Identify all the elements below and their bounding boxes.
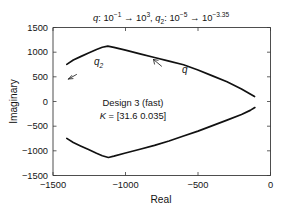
y-tick-label-500: 500: [32, 72, 48, 82]
y-tick-label-1000: 1000: [27, 47, 48, 57]
y-tick-label-neg500: −500: [27, 121, 48, 131]
q2-curve-tag-sub: 2: [99, 62, 104, 69]
x-tick-label-0: 0: [268, 180, 273, 190]
root-locus-plot: q: 10−1 → 103, q2: 10−5 → 10−3.35: [0, 0, 284, 213]
y-tick-label-1500: 1500: [27, 23, 48, 33]
title-q2-from-base: 10: [169, 12, 179, 23]
title-q-from-base: 10: [103, 12, 113, 23]
title-q-arrow: →: [124, 12, 133, 23]
y-axis-title: Imaginary: [8, 78, 19, 124]
y-tick-label-0: 0: [43, 97, 48, 107]
x-tick-label-neg500: −500: [188, 180, 209, 190]
title-q-to-base: 10: [136, 12, 146, 23]
title-q2-to-exp: −3.35: [212, 11, 229, 18]
title-q2-arrow: →: [190, 12, 199, 23]
gain-values: = [31.6 0.035]: [106, 110, 166, 121]
design-label-line2: K = [31.6 0.035]: [100, 110, 166, 121]
x-tick-label-neg1500: −1500: [40, 180, 66, 190]
design-label-line1: Design 3 (fast): [103, 97, 164, 108]
q-curve-tag: q: [182, 64, 188, 75]
y-tick-label-neg1000: −1000: [22, 146, 48, 156]
chart-figure: q: 10−1 → 103, q2: 10−5 → 10−3.35: [0, 0, 284, 213]
title-q2-to-base: 10: [202, 12, 212, 23]
x-axis-title: Real: [151, 194, 172, 205]
x-tick-label-neg1000: −1000: [112, 180, 138, 190]
